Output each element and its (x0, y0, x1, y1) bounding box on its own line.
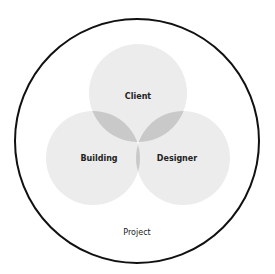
client-label: Client (125, 92, 151, 101)
project-label: Project (123, 228, 150, 237)
building-label: Building (80, 154, 117, 163)
designer-label: Designer (157, 154, 197, 163)
venn-diagram: Client Building Designer Project (0, 0, 275, 274)
